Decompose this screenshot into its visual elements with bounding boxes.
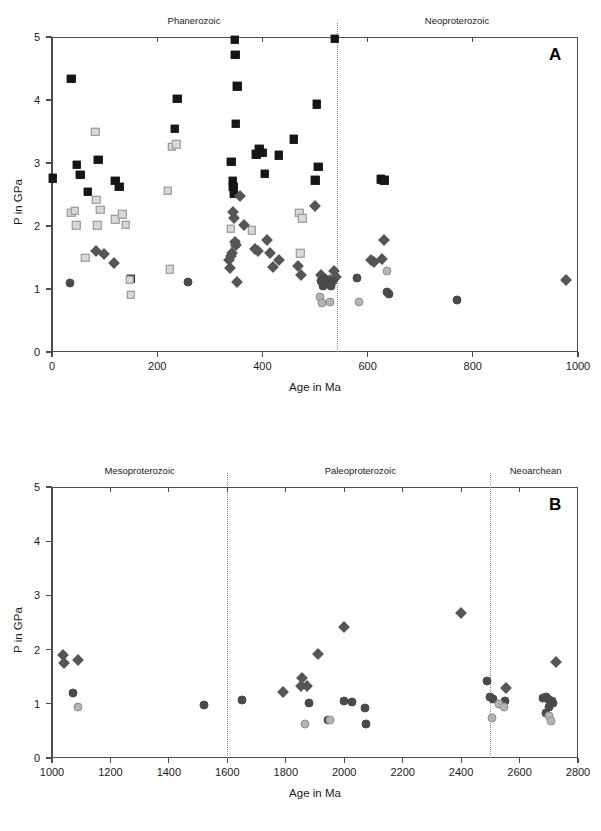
data-point-dark-circle xyxy=(549,698,558,707)
data-point-light-square xyxy=(92,195,101,204)
y-axis-spine-a xyxy=(51,37,53,353)
data-point-light-square xyxy=(72,221,81,230)
xtick-mark-2200 xyxy=(402,758,403,763)
ytick-label-1: 1 xyxy=(18,283,40,295)
data-point-black-square xyxy=(48,174,57,183)
xtick-mark-2800 xyxy=(577,758,578,763)
era-divider-1 xyxy=(227,473,228,758)
xtick-mark-1000 xyxy=(577,352,578,357)
xtick-label-600: 600 xyxy=(358,360,376,372)
xtick-mark-top-400 xyxy=(262,37,263,42)
data-point-light-square xyxy=(81,253,90,262)
data-point-light-square xyxy=(126,275,135,284)
data-point-light-square xyxy=(248,226,257,235)
data-point-light-circle xyxy=(74,703,83,712)
xtick-mark-top-1400 xyxy=(168,487,169,492)
data-point-black-square xyxy=(115,183,124,192)
xtick-label-1800: 1800 xyxy=(274,766,298,778)
xtick-label-2400: 2400 xyxy=(449,766,473,778)
data-point-black-square xyxy=(72,161,81,170)
xtick-mark-top-200 xyxy=(157,37,158,42)
data-point-dark-circle xyxy=(483,677,492,686)
data-point-black-square xyxy=(260,169,269,178)
scatter-figure: PhanerozoicNeoproterozoic012345020040060… xyxy=(0,0,601,831)
y-axis-spine-b xyxy=(51,487,53,759)
data-point-light-square xyxy=(172,140,181,149)
era-divider-1 xyxy=(337,23,338,352)
data-point-dark-circle xyxy=(237,696,246,705)
xtick-mark-1200 xyxy=(110,758,111,763)
xtick-mark-1400 xyxy=(168,758,169,763)
xtick-mark-top-1800 xyxy=(285,487,286,492)
data-point-black-square xyxy=(314,163,323,172)
xtick-mark-top-2600 xyxy=(519,487,520,492)
era-label-mesoproterozoic: Mesoproterozoic xyxy=(105,465,175,476)
data-point-light-square xyxy=(91,127,100,136)
ytick-label-4: 4 xyxy=(18,94,40,106)
data-point-light-circle xyxy=(354,298,363,307)
plot-area-a xyxy=(52,37,578,352)
ytick-label-3: 3 xyxy=(18,157,40,169)
panel-b: MesoproterozoicPaleoproterozoicNeoarchea… xyxy=(0,420,601,831)
xtick-label-1000: 1000 xyxy=(40,766,64,778)
data-point-dark-circle xyxy=(362,720,371,729)
data-point-dark-circle xyxy=(360,703,369,712)
xtick-mark-600 xyxy=(367,352,368,357)
xtick-mark-top-1600 xyxy=(227,487,228,492)
data-point-light-square xyxy=(298,214,307,223)
xtick-label-1600: 1600 xyxy=(215,766,239,778)
data-point-light-square xyxy=(93,221,102,230)
data-point-dark-circle xyxy=(385,290,394,299)
data-point-black-square xyxy=(67,74,76,83)
xtick-label-200: 200 xyxy=(148,360,166,372)
ytick-label-5: 5 xyxy=(18,31,40,43)
panel-letter-a: A xyxy=(549,45,561,65)
data-point-black-square xyxy=(274,151,283,160)
data-point-light-circle xyxy=(500,702,509,711)
data-point-light-square xyxy=(70,207,79,216)
data-point-dark-circle xyxy=(353,274,362,283)
xtick-mark-top-600 xyxy=(367,37,368,42)
ytick-label-3: 3 xyxy=(18,589,40,601)
data-point-dark-circle xyxy=(347,698,356,707)
data-point-black-square xyxy=(290,135,299,144)
data-point-dark-circle xyxy=(69,688,78,697)
x-axis-title-b: Age in Ma xyxy=(289,787,341,799)
xtick-label-2600: 2600 xyxy=(507,766,531,778)
panel-a: PhanerozoicNeoproterozoic012345020040060… xyxy=(0,0,601,420)
xtick-mark-1800 xyxy=(285,758,286,763)
y-axis-title-b: P in GPa xyxy=(12,607,24,653)
data-point-light-square xyxy=(166,265,175,274)
data-point-black-square xyxy=(94,156,103,165)
era-label-neoproterozoic: Neoproterozoic xyxy=(425,15,489,26)
data-point-dark-circle xyxy=(183,278,192,287)
xtick-label-0: 0 xyxy=(49,360,55,372)
data-point-light-square xyxy=(96,205,105,214)
xtick-mark-2600 xyxy=(519,758,520,763)
xtick-mark-2400 xyxy=(461,758,462,763)
data-point-light-square xyxy=(163,186,172,195)
data-point-light-circle xyxy=(300,720,309,729)
xtick-label-2200: 2200 xyxy=(390,766,414,778)
ytick-label-0: 0 xyxy=(18,752,40,764)
data-point-black-square xyxy=(170,125,179,134)
xtick-mark-400 xyxy=(262,352,263,357)
xtick-label-2800: 2800 xyxy=(566,766,590,778)
data-point-light-square xyxy=(118,210,127,219)
data-point-black-square xyxy=(84,188,93,197)
data-point-black-square xyxy=(173,94,182,103)
xtick-label-1400: 1400 xyxy=(157,766,181,778)
data-point-black-square xyxy=(311,176,320,185)
plot-area-b xyxy=(52,487,578,758)
xtick-label-400: 400 xyxy=(253,360,271,372)
xtick-mark-top-2000 xyxy=(344,487,345,492)
xtick-label-800: 800 xyxy=(464,360,482,372)
x-axis-title-a: Age in Ma xyxy=(289,381,341,393)
era-label-paleoproterozoic: Paleoproterozoic xyxy=(325,465,396,476)
data-point-black-square xyxy=(231,120,240,129)
data-point-black-square xyxy=(331,35,340,44)
data-point-light-square xyxy=(121,220,130,229)
xtick-mark-2000 xyxy=(344,758,345,763)
data-point-black-square xyxy=(76,171,85,180)
data-point-light-square xyxy=(296,249,305,258)
